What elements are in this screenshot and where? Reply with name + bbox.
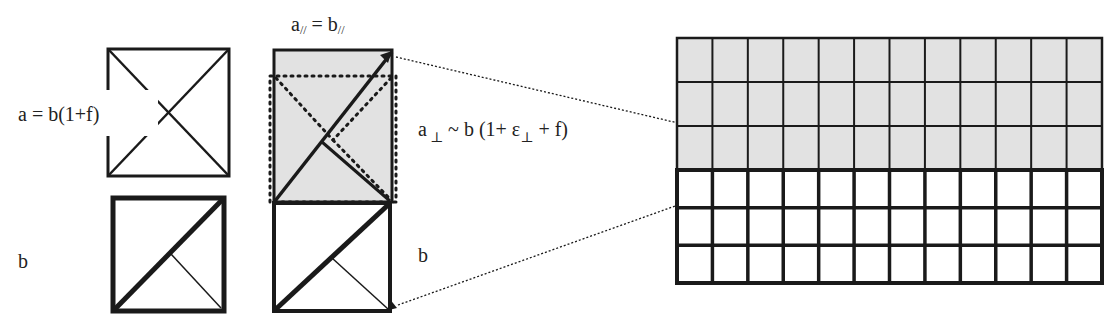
lattice-equation-free: a = b(1+f) <box>18 103 99 126</box>
strain-diagram: a = b(1+f) b a// = b// a⊥ ~ b (1+ ε⊥ + f… <box>0 0 1120 330</box>
parallel-equation: a// = b// <box>291 13 345 37</box>
projection-line-bottom <box>398 205 678 305</box>
free-cell-square <box>100 49 229 176</box>
lattice-grid <box>677 38 1102 283</box>
substrate-cell-middle <box>274 203 397 311</box>
strained-film-cell <box>270 50 396 202</box>
projection-line-top <box>396 57 678 123</box>
substrate-label-middle: b <box>418 244 428 266</box>
perpendicular-equation: a⊥ ~ b (1+ ε⊥ + f) <box>418 118 568 145</box>
substrate-cell-square <box>113 198 224 311</box>
substrate-label: b <box>18 250 28 272</box>
